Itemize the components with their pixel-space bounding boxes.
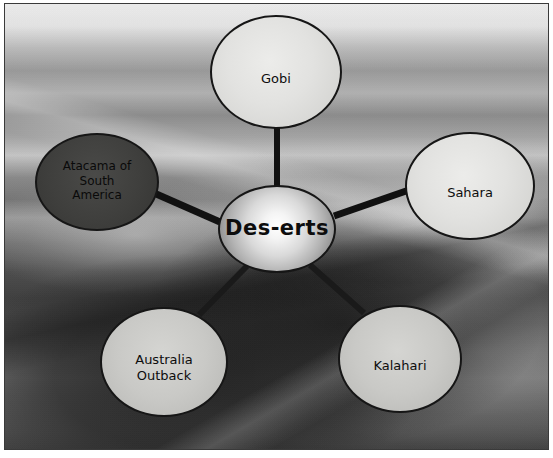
node-deserts-center-label: Des-erts [220,216,334,242]
node-australia-outback-label: Australia Outback [102,352,226,384]
node-atacama[interactable]: Atacama of South America [35,133,159,231]
node-deserts-center[interactable]: Des-erts [218,185,336,273]
node-kalahari-label: Kalahari [340,358,460,374]
node-atacama-label: Atacama of South America [37,159,157,203]
node-gobi-label: Gobi [212,71,340,87]
node-kalahari[interactable]: Kalahari [338,305,462,413]
concept-map-canvas: Gobi Sahara Atacama of South America Aus… [0,0,553,458]
node-australia-outback[interactable]: Australia Outback [100,307,228,417]
node-sahara[interactable]: Sahara [405,132,535,240]
node-sahara-label: Sahara [407,185,533,201]
node-gobi[interactable]: Gobi [210,15,342,129]
